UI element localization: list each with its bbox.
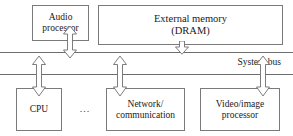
down-arrow-dram-to-bus-icon bbox=[174, 41, 190, 55]
block-external-memory[interactable]: External memory(DRAM) bbox=[98, 5, 283, 45]
block-video-image-processor-label-line1: Video/image bbox=[216, 99, 265, 109]
block-external-memory-label-line2: (DRAM) bbox=[171, 25, 210, 36]
block-audio-processor[interactable]: Audioprocessor bbox=[32, 5, 89, 41]
block-video-image-processor-label: Video/imageprocessor bbox=[214, 99, 267, 120]
system-bus-diagram: Audioprocessor External memory(DRAM) Sys… bbox=[0, 0, 293, 136]
double-arrow-bus-to-network-icon bbox=[112, 55, 128, 97]
block-video-image-processor-label-line2: processor bbox=[222, 110, 258, 120]
double-arrow-bus-to-cpu-icon bbox=[31, 55, 47, 97]
block-network-communication-label: Network/communication bbox=[114, 99, 177, 120]
block-external-memory-label-line1: External memory bbox=[154, 13, 227, 24]
block-network-communication-label-line1: Network/ bbox=[128, 99, 164, 109]
ellipsis-more-blocks: ... bbox=[72, 103, 98, 114]
double-arrow-audio-to-bus-icon bbox=[62, 25, 78, 59]
block-audio-processor-label-line1: Audio bbox=[49, 12, 73, 22]
double-arrow-bus-to-video-icon bbox=[255, 55, 271, 97]
system-bus-line-upper bbox=[0, 52, 293, 53]
block-external-memory-label: External memory(DRAM) bbox=[152, 13, 229, 37]
block-cpu-label: CPU bbox=[28, 104, 50, 115]
block-network-communication-label-line2: communication bbox=[116, 110, 175, 120]
